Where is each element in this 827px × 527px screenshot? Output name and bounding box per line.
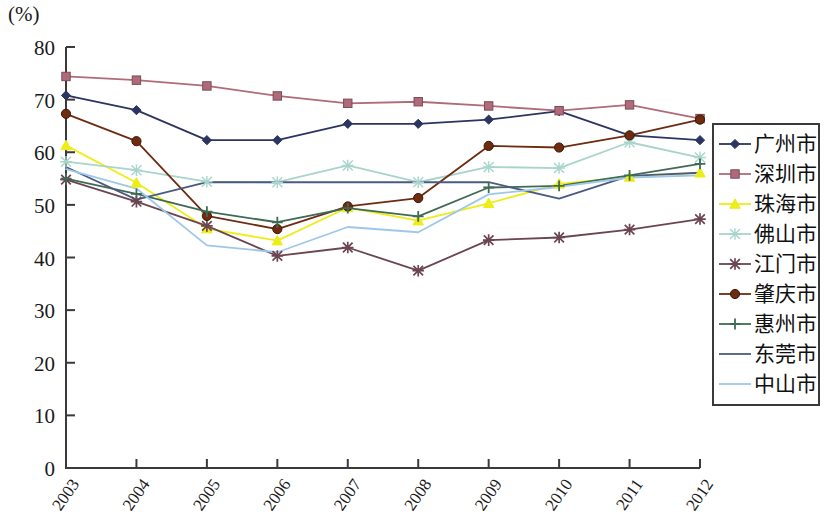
data-point-marker	[731, 170, 739, 178]
data-point-marker	[272, 250, 284, 262]
line-chart: (%) 010203040506070802003200420052006200…	[0, 0, 827, 527]
data-point-marker	[483, 234, 495, 246]
x-axis-tick-label: 2009	[471, 475, 506, 514]
marker-asterisk	[201, 220, 213, 232]
x-axis-tick-label: 2010	[541, 475, 576, 514]
legend-item-label: 中山市	[754, 374, 817, 395]
data-point-marker	[203, 82, 211, 90]
legend-item-label: 惠州市	[754, 314, 817, 335]
data-point-marker	[414, 119, 423, 128]
data-point-marker	[695, 115, 704, 124]
marker-diamond	[414, 119, 423, 128]
data-point-marker	[342, 160, 354, 172]
data-point-marker	[414, 193, 423, 202]
series-line	[66, 167, 700, 200]
marker-asterisk	[624, 224, 636, 236]
legend-item-label: 广州市	[754, 134, 817, 155]
series-line	[66, 142, 700, 182]
x-axis-tick-label: 2011	[612, 475, 647, 513]
data-point-marker	[730, 289, 739, 298]
marker-diamond	[695, 136, 704, 145]
x-axis-tick-label: 2004	[119, 475, 154, 514]
data-point-marker	[729, 228, 741, 240]
axis-frame	[66, 47, 700, 468]
plot-area: 0102030405060708020032004200520062007200…	[0, 0, 827, 527]
x-axis-tick-label: 2012	[682, 475, 717, 514]
legend-marker-asterisk-icon	[718, 255, 752, 273]
marker-star	[412, 176, 424, 188]
data-point-marker	[61, 109, 70, 118]
data-point-marker	[412, 176, 424, 188]
marker-square	[484, 102, 492, 110]
data-point-marker	[625, 131, 634, 140]
series-line	[66, 76, 700, 118]
legend-item[interactable]: 惠州市	[714, 309, 818, 339]
data-point-marker	[132, 137, 141, 146]
data-point-marker	[553, 232, 565, 244]
marker-square	[132, 76, 140, 84]
marker-star	[131, 164, 143, 176]
legend-marker-line-icon	[718, 345, 752, 363]
marker-asterisk	[553, 232, 565, 244]
legend-item[interactable]: 肇庆市	[714, 279, 818, 309]
data-point-marker	[554, 181, 565, 192]
marker-diamond	[273, 136, 282, 145]
legend-marker-diamond-icon	[718, 135, 752, 153]
data-point-marker	[344, 99, 352, 107]
legend-sample-swatch	[718, 255, 752, 273]
data-point-marker	[273, 92, 281, 100]
legend-sample-swatch	[718, 315, 752, 333]
marker-asterisk	[342, 242, 354, 254]
y-axis-tick-label: 50	[34, 194, 55, 218]
marker-circle	[695, 115, 704, 124]
data-point-marker	[131, 164, 143, 176]
data-point-marker	[555, 106, 563, 114]
legend-marker-star-icon	[718, 225, 752, 243]
data-point-marker	[414, 98, 422, 106]
marker-diamond	[202, 136, 211, 145]
data-point-marker	[695, 158, 706, 169]
data-point-marker	[483, 161, 495, 173]
marker-triangle	[131, 178, 141, 187]
legend-item[interactable]: 东莞市	[714, 339, 818, 369]
data-point-marker	[730, 319, 741, 330]
marker-plus	[730, 319, 741, 330]
data-point-marker	[61, 140, 71, 149]
x-axis-tick-label: 2006	[260, 475, 295, 514]
marker-circle	[484, 141, 493, 150]
marker-plus	[554, 181, 565, 192]
legend-item[interactable]: 中山市	[714, 369, 818, 399]
data-point-marker	[343, 119, 352, 128]
data-point-marker	[553, 162, 565, 174]
data-point-marker	[729, 258, 741, 270]
legend-sample-swatch	[718, 225, 752, 243]
y-axis-tick-label: 10	[34, 404, 55, 428]
marker-triangle	[61, 140, 71, 149]
data-point-marker	[273, 136, 282, 145]
data-point-marker	[484, 141, 493, 150]
marker-square	[344, 99, 352, 107]
marker-star	[272, 176, 284, 188]
marker-star	[342, 160, 354, 172]
marker-star	[60, 156, 72, 168]
legend-sample-swatch	[718, 285, 752, 303]
legend-item[interactable]: 江门市	[714, 249, 818, 279]
legend-item[interactable]: 广州市	[714, 129, 818, 159]
marker-square	[414, 98, 422, 106]
y-axis-tick-label: 30	[34, 299, 55, 323]
marker-circle	[625, 131, 634, 140]
data-point-marker	[484, 115, 493, 124]
data-point-marker	[484, 102, 492, 110]
legend-item[interactable]: 珠海市	[714, 189, 818, 219]
legend-item[interactable]: 深圳市	[714, 159, 818, 189]
marker-circle	[730, 289, 739, 298]
marker-star	[201, 176, 213, 188]
y-axis-tick-label: 80	[34, 36, 55, 60]
legend-marker-square-icon	[718, 165, 752, 183]
legend-item-label: 佛山市	[754, 224, 817, 245]
data-point-marker	[62, 72, 70, 80]
marker-square	[273, 92, 281, 100]
legend-item[interactable]: 佛山市	[714, 219, 818, 249]
y-axis-tick-label: 0	[45, 457, 56, 481]
marker-plus	[695, 158, 706, 169]
